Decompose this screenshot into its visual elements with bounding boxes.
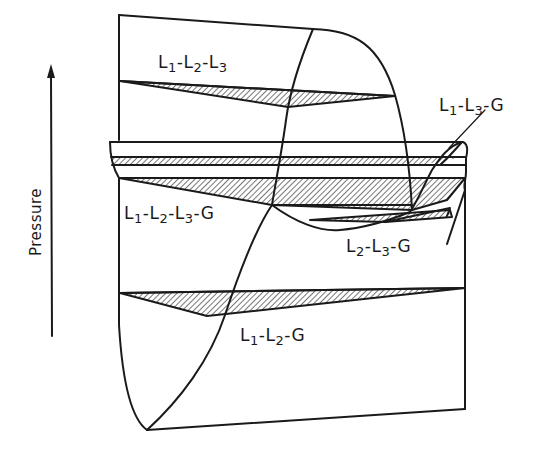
- label-l1-l2-l3-g: L1-L2-L3-G: [124, 203, 214, 226]
- top-edge: [119, 15, 313, 29]
- l1-curve: [147, 205, 272, 430]
- pressure-axis-label: Pressure: [27, 188, 45, 256]
- label-l1-l3-g: L1-L3-G: [439, 95, 504, 118]
- pressure-axis-arrow: [47, 64, 55, 336]
- phase-diagram: [0, 0, 547, 454]
- label-l1-l2-l3: L1-L2-L3: [158, 52, 228, 75]
- label-l2-l3-g: L2-L3-G: [346, 236, 411, 259]
- bottom-edge: [147, 409, 465, 430]
- label-l1-l2-g: L1-L2-G: [240, 325, 305, 348]
